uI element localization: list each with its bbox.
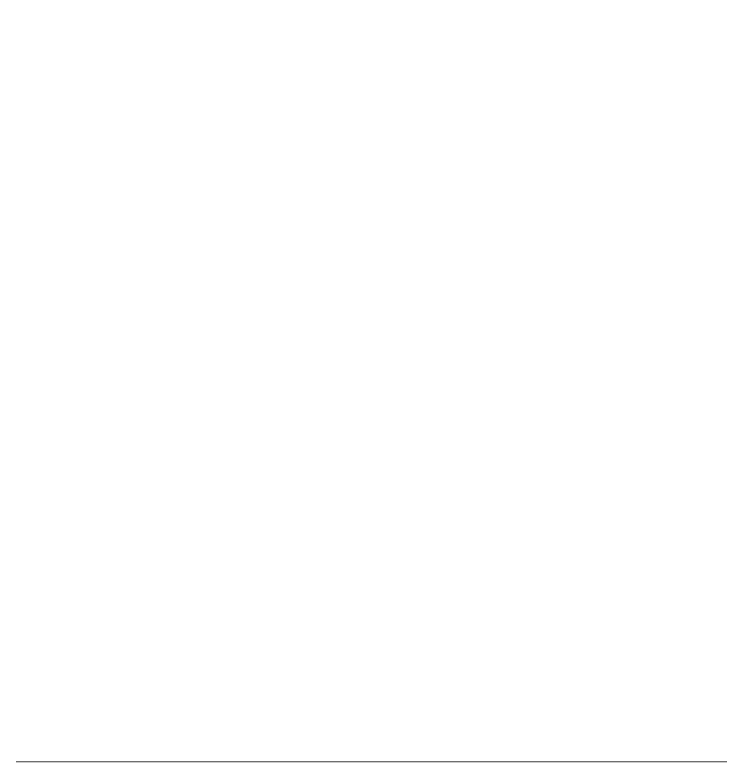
pattern-grid-canvas (17, 31, 708, 731)
footer-divider-shadow (16, 762, 727, 763)
cross-stitch-chart (17, 31, 708, 731)
pattern-page (0, 0, 742, 771)
